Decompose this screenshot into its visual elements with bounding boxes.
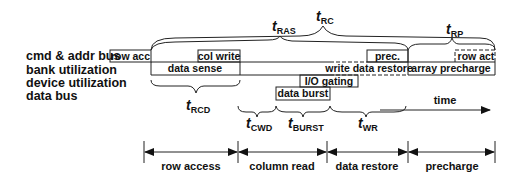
label-trp: tRP	[446, 21, 463, 39]
box-array-precharge: array precharge	[408, 62, 495, 75]
svg-text:tWR: tWR	[358, 115, 378, 133]
svg-text:write data restore: write data restore	[324, 62, 413, 74]
dram-write-timing-diagram: cmd & addr bus bank utilization device u…	[0, 0, 520, 183]
brace-tburst	[276, 106, 330, 117]
svg-text:data sense: data sense	[168, 62, 222, 74]
phase-timeline: row access column read data restore prec…	[144, 141, 495, 172]
label-device-utilization: device utilization	[26, 76, 127, 90]
phase-precharge: precharge	[425, 160, 478, 172]
label-tras: tRAS	[272, 18, 296, 36]
svg-text:tRP: tRP	[446, 21, 463, 39]
label-data-bus: data bus	[26, 89, 77, 103]
box-data-sense: data sense	[151, 62, 330, 75]
box-data-burst: data burst	[276, 87, 330, 100]
phase-column-read: column read	[249, 160, 314, 172]
box-row-acc: row acc	[110, 50, 151, 63]
brace-trc	[151, 26, 495, 50]
svg-text:tRC: tRC	[316, 8, 334, 26]
svg-text:tRAS: tRAS	[272, 18, 296, 36]
svg-text:time: time	[434, 94, 457, 106]
svg-text:array precharge: array precharge	[411, 62, 491, 74]
label-trc: tRC	[316, 8, 334, 26]
svg-text:row act: row act	[458, 50, 495, 62]
svg-text:tCWD: tCWD	[246, 115, 273, 133]
svg-text:prec.: prec.	[375, 50, 400, 62]
box-prec: prec.	[367, 50, 408, 63]
box-row-act: row act	[455, 50, 495, 63]
label-tcwd: tCWD	[246, 115, 273, 133]
phase-data-restore: data restore	[336, 160, 399, 172]
brace-trcd	[151, 80, 240, 93]
box-io-gating: I/O gating	[300, 75, 358, 88]
brace-tcwd	[238, 106, 276, 117]
label-tburst: tBURST	[288, 115, 324, 133]
phase-row-access: row access	[161, 160, 220, 172]
box-col-write: col write	[198, 50, 241, 63]
time-axis-arrow: time	[380, 94, 490, 110]
svg-text:data burst: data burst	[278, 87, 329, 99]
label-cmd-addr-bus: cmd & addr bus	[26, 49, 121, 63]
brace-twr	[330, 106, 406, 117]
svg-text:tBURST: tBURST	[288, 115, 324, 133]
label-bank-utilization: bank utilization	[26, 63, 117, 77]
svg-text:tRCD: tRCD	[186, 97, 211, 115]
svg-text:row acc: row acc	[111, 50, 150, 62]
brace-trp	[408, 38, 495, 50]
top-braces	[151, 26, 495, 50]
svg-text:col write: col write	[198, 50, 241, 62]
svg-text:I/O gating: I/O gating	[305, 75, 353, 87]
label-trcd: tRCD	[186, 97, 211, 115]
label-twr: tWR	[358, 115, 378, 133]
